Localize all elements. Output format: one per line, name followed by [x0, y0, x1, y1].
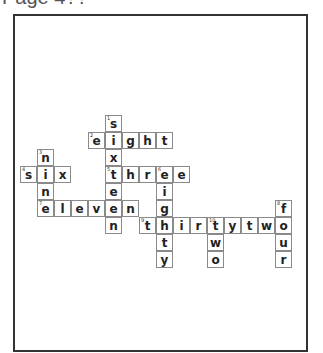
crossword-cell[interactable]: e [105, 183, 122, 200]
cell-letter: e [89, 133, 104, 148]
crossword-cell[interactable]: y [224, 217, 241, 234]
crossword-cell[interactable]: t [156, 234, 173, 251]
crossword-cell[interactable]: h [139, 132, 156, 149]
crossword-cell[interactable]: e [173, 166, 190, 183]
crossword-cell[interactable]: g [156, 200, 173, 217]
crossword-cell[interactable]: v [88, 200, 105, 217]
cell-letter: t [208, 218, 223, 233]
cell-letter: o [208, 252, 223, 267]
cell-letter: t [157, 235, 172, 250]
cell-letter: h [140, 133, 155, 148]
cell-letter: t [140, 218, 155, 233]
crossword-cell[interactable]: y [156, 251, 173, 268]
crossword-cell[interactable]: 8f [275, 200, 292, 217]
cell-letter: e [72, 201, 87, 216]
crossword-cell[interactable]: w [207, 234, 224, 251]
cell-letter: t [106, 167, 121, 182]
crossword-cell[interactable]: o [275, 217, 292, 234]
crossword-cell[interactable]: x [105, 149, 122, 166]
cell-letter: s [106, 116, 121, 131]
cell-letter: n [106, 218, 121, 233]
cell-letter: n [123, 201, 138, 216]
cell-letter: s [21, 167, 36, 182]
crossword-cell[interactable]: r [190, 217, 207, 234]
cell-letter: l [55, 201, 70, 216]
crossword-cell[interactable]: e [71, 200, 88, 217]
crossword-cell[interactable]: 3n [37, 149, 54, 166]
crossword-cell[interactable]: 9t [139, 217, 156, 234]
crossword-cell[interactable]: g [122, 132, 139, 149]
cell-letter: i [38, 167, 53, 182]
crossword-cell[interactable]: n [122, 200, 139, 217]
cell-letter: x [55, 167, 70, 182]
cell-letter: r [140, 167, 155, 182]
crossword-cell[interactable]: i [173, 217, 190, 234]
cell-letter: e [38, 201, 53, 216]
crossword-cell[interactable]: n [37, 183, 54, 200]
cell-letter: e [157, 167, 172, 182]
cell-letter: i [157, 184, 172, 199]
cell-letter: u [276, 235, 291, 250]
cell-letter: i [174, 218, 189, 233]
crossword-cell[interactable]: o [207, 251, 224, 268]
crossword-cell[interactable]: h [122, 166, 139, 183]
cell-letter: r [191, 218, 206, 233]
cell-letter: r [276, 252, 291, 267]
cell-letter: y [225, 218, 240, 233]
cell-letter: w [259, 218, 274, 233]
cell-letter: i [106, 133, 121, 148]
crossword-cell[interactable]: i [37, 166, 54, 183]
cell-letter: x [106, 150, 121, 165]
crossword-cell[interactable]: e [105, 200, 122, 217]
cell-letter: e [174, 167, 189, 182]
crossword-cell[interactable]: h [156, 217, 173, 234]
cell-letter: o [276, 218, 291, 233]
cell-letter: h [157, 218, 172, 233]
cell-letter: t [157, 133, 172, 148]
crossword-cell[interactable]: 6e [156, 166, 173, 183]
crossword-cell[interactable]: l [54, 200, 71, 217]
crossword-cell[interactable]: 4s [20, 166, 37, 183]
crossword-cell[interactable]: i [105, 132, 122, 149]
crossword-cell[interactable]: w [258, 217, 275, 234]
crossword-cell[interactable]: 1s [105, 115, 122, 132]
crossword-cell[interactable]: u [275, 234, 292, 251]
cell-letter: n [38, 184, 53, 199]
crossword-cell[interactable]: 2e [88, 132, 105, 149]
crossword-cell[interactable]: 10t [207, 217, 224, 234]
cell-letter: e [106, 201, 121, 216]
page-title: Page 4?? [2, 0, 88, 9]
crossword-cell[interactable]: 5t [105, 166, 122, 183]
crossword-cell[interactable]: x [54, 166, 71, 183]
crossword-cell[interactable]: i [156, 183, 173, 200]
cell-letter: w [208, 235, 223, 250]
crossword-cell[interactable]: n [105, 217, 122, 234]
crossword-cell[interactable]: r [139, 166, 156, 183]
cell-letter: e [106, 184, 121, 199]
cell-letter: v [89, 201, 104, 216]
crossword-cell[interactable]: r [275, 251, 292, 268]
crossword-cell[interactable]: t [241, 217, 258, 234]
cell-letter: f [276, 201, 291, 216]
crossword-cell[interactable]: 7e [37, 200, 54, 217]
cell-letter: y [157, 252, 172, 267]
cell-letter: g [123, 133, 138, 148]
cell-letter: t [242, 218, 257, 233]
cell-letter: n [38, 150, 53, 165]
cell-letter: g [157, 201, 172, 216]
crossword-cell[interactable]: t [156, 132, 173, 149]
cell-letter: h [123, 167, 138, 182]
